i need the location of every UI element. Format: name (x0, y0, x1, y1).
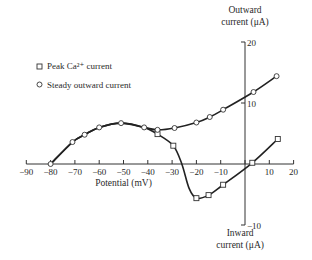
steady-outward-current-point (155, 127, 160, 132)
y-axis-title-bottom-line1: Inward (227, 228, 254, 238)
x-axis-title: Potential (mV) (95, 178, 152, 189)
y-axis-title-top-line2: current (μA) (221, 17, 269, 28)
x-tick-label: −30 (165, 167, 180, 177)
legend-circle-marker-icon (37, 82, 42, 87)
x-ticks: −90−80−70−60−50−40−30−20−101020 (19, 160, 298, 177)
y-tick-label: 20 (247, 38, 257, 48)
steady-outward-current-point (119, 121, 124, 126)
peak-ca-current-point (221, 182, 226, 187)
legend-square-marker-icon (37, 64, 42, 69)
peak-ca-current-point (171, 143, 176, 148)
x-tick-label: −10 (214, 167, 229, 177)
y-axis-title-bottom-line2: current (μA) (216, 240, 264, 251)
steady-outward-current-point (142, 125, 147, 130)
iv-curve-chart: −90−80−70−60−50−40−30−20−101020 2010−10 … (0, 0, 312, 260)
steady-outward-current-point (172, 126, 177, 131)
x-tick-label: −60 (92, 167, 107, 177)
x-tick-label: 20 (289, 167, 299, 177)
peak-ca-current-point (206, 193, 211, 198)
steady-outward-current-point (221, 107, 226, 112)
steady-outward-current-point (274, 74, 279, 79)
steady-outward-current-point (251, 90, 256, 95)
x-tick-label: −50 (116, 167, 131, 177)
steady-outward-current-point (82, 132, 87, 137)
legend: Peak Ca²⁺ current Steady outward current (37, 61, 131, 90)
y-tick-label: 10 (247, 99, 257, 109)
legend-label-steady-outward: Steady outward current (47, 80, 131, 90)
legend-label-peak-ca: Peak Ca²⁺ current (47, 61, 112, 71)
peak-ca-current-point (275, 136, 280, 141)
steady-outward-current-point (70, 140, 75, 145)
peak-ca-current-point (194, 196, 199, 201)
x-tick-label: −70 (68, 167, 83, 177)
steady-outward-current-point (194, 120, 199, 125)
y-ticks: 2010−10 (241, 38, 262, 231)
x-tick-label: 10 (265, 167, 275, 177)
x-tick-label: −40 (141, 167, 156, 177)
x-tick-label: −20 (189, 167, 204, 177)
steady-outward-current-point (48, 162, 53, 167)
steady-outward-current-point (97, 125, 102, 130)
peak-ca-current-point (250, 160, 255, 165)
x-tick-label: −80 (44, 167, 59, 177)
y-axis-title-top-line1: Outward (228, 5, 261, 15)
x-tick-label: −90 (19, 167, 34, 177)
steady-outward-current-point (207, 115, 212, 120)
